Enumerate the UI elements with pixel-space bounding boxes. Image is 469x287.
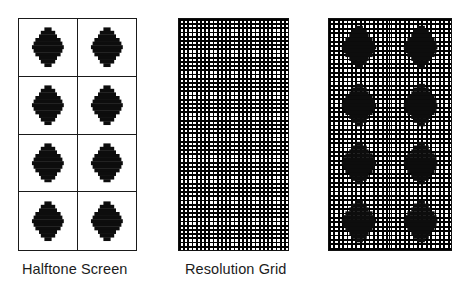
halftone-dot — [32, 28, 64, 68]
halftone-cell — [78, 19, 137, 77]
halftone-cell — [390, 19, 451, 77]
halftone-dot — [91, 85, 123, 125]
halftone-cell — [390, 192, 451, 250]
halftone-dot — [91, 201, 123, 241]
halftone-figure: Halftone Screen Resolution Grid — [0, 0, 469, 287]
halftone-cell — [329, 135, 390, 193]
halftone-dot — [342, 141, 377, 184]
halftone-dot — [91, 143, 123, 183]
panel-halftone-screen — [18, 18, 137, 251]
resolution-grid-texture — [179, 19, 288, 250]
halftone-dot — [342, 26, 377, 69]
halftone-cell — [329, 192, 390, 250]
halftone-cell — [390, 77, 451, 135]
halftone-cell-grid — [19, 19, 136, 250]
halftone-cell — [19, 192, 78, 250]
halftone-dot — [342, 200, 377, 243]
halftone-cell — [78, 77, 137, 135]
halftone-dot — [32, 143, 64, 183]
halftone-cell — [19, 77, 78, 135]
halftone-dot — [32, 85, 64, 125]
halftone-dot — [91, 28, 123, 68]
halftone-cell — [329, 77, 390, 135]
halftone-cell — [19, 19, 78, 77]
halftone-dot — [32, 201, 64, 241]
halftone-cell — [329, 19, 390, 77]
caption-halftone-screen: Halftone Screen — [22, 261, 127, 277]
halftone-dot — [403, 200, 438, 243]
halftone-cell — [78, 192, 137, 250]
halftone-dot — [403, 26, 438, 69]
halftone-cell — [390, 135, 451, 193]
panel-combined-halftone-on-grid — [328, 18, 452, 251]
halftone-dot — [342, 84, 377, 127]
halftone-cell — [19, 135, 78, 193]
combined-cell-grid — [329, 19, 451, 250]
panel-resolution-grid — [178, 18, 289, 251]
halftone-cell — [78, 135, 137, 193]
halftone-dot — [403, 84, 438, 127]
halftone-dot — [403, 141, 438, 184]
caption-resolution-grid: Resolution Grid — [185, 261, 286, 277]
